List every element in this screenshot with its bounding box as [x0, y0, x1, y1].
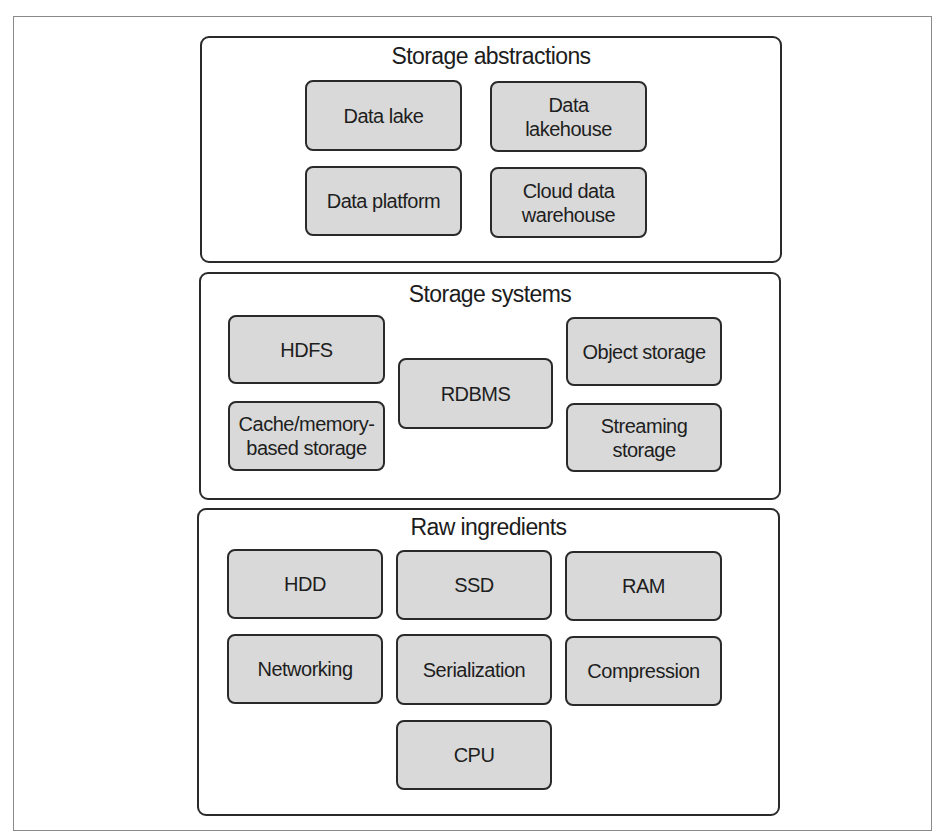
box-streaming-storage: Streaming storage — [566, 403, 722, 472]
box-ssd: SSD — [396, 550, 552, 620]
box-hdfs: HDFS — [228, 315, 385, 384]
box-cpu: CPU — [396, 720, 552, 790]
box-cloud-data-warehouse: Cloud data warehouse — [490, 167, 647, 238]
box-serialization: Serialization — [396, 634, 552, 705]
box-data-lake: Data lake — [305, 80, 462, 151]
box-ram: RAM — [565, 551, 722, 621]
box-data-lakehouse: Data lakehouse — [490, 81, 647, 152]
box-cache-memory-storage: Cache/memory- based storage — [228, 401, 385, 471]
box-compression: Compression — [565, 636, 722, 706]
box-networking: Networking — [227, 634, 383, 704]
box-data-platform: Data platform — [305, 166, 462, 236]
layer-title: Storage systems — [201, 281, 779, 308]
layer-title: Raw ingredients — [199, 514, 778, 541]
box-object-storage: Object storage — [566, 317, 722, 386]
box-hdd: HDD — [227, 549, 383, 619]
box-rdbms: RDBMS — [398, 358, 553, 429]
layer-title: Storage abstractions — [202, 43, 780, 70]
